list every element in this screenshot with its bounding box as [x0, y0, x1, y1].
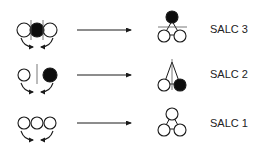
triangle-orbitals-salc2	[158, 59, 186, 91]
orbital-open-icon	[166, 108, 178, 120]
curved-arrow-icon	[41, 131, 53, 140]
row-salc2	[18, 59, 186, 92]
orbital-open-icon	[18, 69, 30, 81]
salc2-label: SALC 2	[210, 68, 248, 80]
linear-orbitals-salc3	[17, 20, 57, 47]
orbital-open-icon	[158, 124, 170, 136]
orbital-open-icon	[43, 23, 57, 37]
orbital-open-icon	[17, 23, 31, 37]
orbital-filled-icon	[174, 79, 186, 91]
orbital-open-icon	[158, 30, 170, 42]
row-salc3	[17, 11, 187, 47]
orbital-open-icon	[174, 30, 186, 42]
orbital-filled-icon	[30, 23, 44, 37]
salc3-label: SALC 3	[210, 23, 248, 35]
triangle-orbitals-salc1	[158, 108, 186, 136]
orbital-open-icon	[31, 117, 43, 129]
salc1-label: SALC 1	[210, 117, 248, 129]
orbital-open-icon	[158, 79, 170, 91]
curved-arrow-icon	[21, 83, 33, 92]
row-salc1	[18, 108, 186, 140]
curved-arrow-icon	[41, 83, 53, 92]
orbital-filled-icon	[166, 11, 178, 23]
orbital-open-icon	[44, 117, 56, 129]
orbital-filled-icon	[43, 68, 57, 82]
curved-arrow-icon	[21, 131, 33, 140]
linear-orbitals-salc1	[18, 117, 56, 140]
triangle-orbitals-salc3	[158, 11, 187, 42]
orbital-open-icon	[18, 117, 30, 129]
linear-orbitals-salc2	[18, 64, 57, 92]
orbital-open-icon	[174, 124, 186, 136]
